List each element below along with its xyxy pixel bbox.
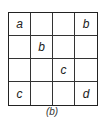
grid-cell: b [75,13,97,36]
grid-cell [75,36,97,59]
grid-cell [31,82,53,105]
grid-cell [53,82,75,105]
grid-cell [9,36,31,59]
grid-cell: c [9,82,31,105]
grid-cell: a [9,13,31,36]
grid-cell: c [53,59,75,82]
grid-cell [9,59,31,82]
grid-cell [31,59,53,82]
figure-caption: (b) [0,106,104,117]
grid-cell: b [31,36,53,59]
grid-cell: d [75,82,97,105]
grid-cell [31,13,53,36]
grid-cell [53,36,75,59]
letter-grid: a b b c c d [8,12,98,106]
grid-cell [75,59,97,82]
grid-cell [53,13,75,36]
